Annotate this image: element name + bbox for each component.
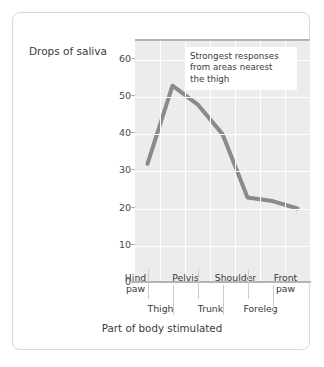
- y-axis-tick-label: 40: [105, 127, 131, 138]
- gridline-vertical: [160, 41, 161, 283]
- y-axis-tick-label: 10: [105, 238, 131, 249]
- x-axis-title: Part of body stimulated: [0, 322, 324, 334]
- x-axis-label-line: paw: [106, 284, 166, 295]
- x-axis-label-line: paw: [256, 284, 316, 295]
- y-axis-title: Drops of saliva: [29, 45, 107, 57]
- y-axis-tick-mark: [131, 169, 135, 170]
- x-axis-tick-separator: [148, 269, 149, 299]
- x-axis-tick-separator: [173, 285, 174, 315]
- x-axis-label-lower: Foreleg: [231, 304, 291, 315]
- gridline-horizontal: [135, 97, 310, 98]
- y-axis-tick-mark: [131, 132, 135, 133]
- gridline-horizontal: [135, 134, 310, 135]
- chart-card: Drops of saliva 0102030405060 Strongest …: [12, 12, 310, 350]
- y-axis-tick-label: 30: [105, 164, 131, 175]
- gridline-horizontal: [135, 209, 310, 210]
- y-axis-tick-label: 20: [105, 201, 131, 212]
- x-axis-label-upper: Frontpaw: [256, 273, 316, 295]
- y-axis-tick-mark: [131, 281, 135, 282]
- y-axis-tick-mark: [131, 95, 135, 96]
- annotation-line-3: the thigh: [190, 74, 292, 85]
- y-axis-tick-mark: [131, 58, 135, 59]
- y-axis-tick-label: 60: [105, 52, 131, 63]
- chart-annotation: Strongest responses from areas nearest t…: [185, 47, 297, 90]
- annotation-line-2: from areas nearest: [190, 62, 292, 73]
- y-axis-tick-mark: [131, 207, 135, 208]
- annotation-line-1: Strongest responses: [190, 51, 292, 62]
- y-axis-tick-mark: [131, 244, 135, 245]
- series-line: [148, 86, 298, 209]
- y-axis-tick-labels: 0102030405060: [105, 39, 131, 281]
- x-axis-tick-separator: [198, 269, 199, 299]
- x-axis-tick-separator: [273, 285, 274, 315]
- y-axis-tick-label: 50: [105, 89, 131, 100]
- x-axis-tick-separator: [248, 269, 249, 299]
- gridline-horizontal: [135, 246, 310, 247]
- gridline-horizontal: [135, 171, 310, 172]
- x-axis-tick-separator: [223, 285, 224, 315]
